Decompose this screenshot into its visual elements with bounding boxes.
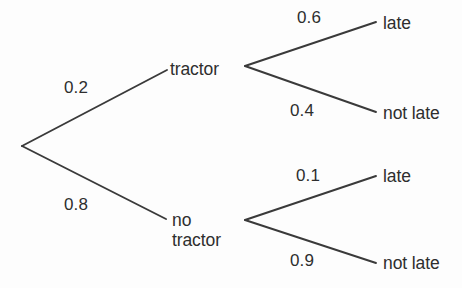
probability-label-not-late-tractor: 0.4 bbox=[290, 101, 314, 121]
probability-label-late-no-tractor: 0.1 bbox=[296, 166, 320, 186]
branch-tractor-to-late bbox=[245, 22, 376, 66]
node-label-late-tractor-text: late bbox=[383, 13, 411, 33]
branch-root-to-tractor bbox=[22, 70, 167, 146]
node-label-no-tractor-line2: tractor bbox=[172, 230, 221, 250]
node-label-not-late-no-tractor: not late bbox=[383, 253, 440, 273]
probability-label-no-tractor: 0.8 bbox=[64, 195, 88, 215]
probability-tree-diagram: tractor no tractor late not late late no… bbox=[0, 0, 462, 288]
node-label-late-no-tractor: late bbox=[383, 166, 411, 186]
node-label-not-late-no-tractor-text: not late bbox=[383, 253, 440, 273]
node-label-late-no-tractor-text: late bbox=[383, 166, 411, 186]
node-label-not-late-tractor-text: not late bbox=[383, 103, 440, 123]
probability-label-late-tractor: 0.6 bbox=[297, 8, 321, 28]
probability-label-tractor: 0.2 bbox=[64, 78, 88, 98]
node-label-late-tractor: late bbox=[383, 13, 411, 33]
node-label-tractor-text: tractor bbox=[170, 59, 219, 79]
node-label-not-late-tractor: not late bbox=[383, 103, 440, 123]
tree-branches bbox=[0, 0, 462, 288]
branch-root-to-no-tractor bbox=[22, 146, 166, 219]
probability-label-not-late-no-tractor: 0.9 bbox=[290, 251, 314, 271]
node-label-tractor: tractor bbox=[170, 59, 219, 79]
node-label-no-tractor-line1: no bbox=[172, 210, 191, 230]
node-label-no-tractor: no tractor bbox=[172, 210, 221, 251]
